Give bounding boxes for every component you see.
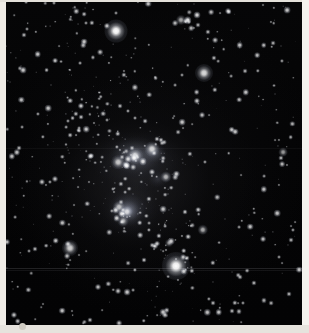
field-star (18, 66, 22, 70)
field-star-band (167, 193, 169, 195)
field-star (287, 61, 289, 63)
field-star-band (144, 183, 146, 185)
field-star-band (164, 223, 166, 225)
field-star (117, 103, 122, 108)
field-star-band (187, 266, 189, 268)
field-star (292, 116, 294, 118)
field-star (216, 59, 220, 63)
field-star (48, 263, 50, 265)
field-star (153, 245, 156, 248)
field-star (147, 43, 150, 46)
cluster-star-belt-group (136, 155, 139, 158)
cluster-star-sword-group (118, 210, 126, 218)
field-star (221, 39, 223, 41)
field-star-band (119, 82, 121, 84)
field-star (99, 161, 102, 164)
field-star-band (78, 126, 82, 130)
field-star (57, 195, 59, 197)
field-star (274, 210, 281, 217)
field-star-band (71, 74, 73, 76)
field-star-band (156, 233, 161, 238)
field-star (212, 281, 214, 283)
field-star (146, 184, 148, 186)
cluster-star-belt-group (130, 146, 135, 151)
field-star (228, 258, 230, 260)
cluster-star-belt-group (135, 155, 138, 158)
field-star (98, 213, 100, 215)
field-star (163, 153, 165, 155)
field-star-band (196, 207, 202, 213)
field-star-band (154, 142, 158, 146)
field-star-band (146, 196, 151, 201)
field-star (25, 27, 29, 31)
field-star-band (166, 219, 169, 222)
field-star-band (137, 213, 139, 215)
field-star (236, 273, 241, 278)
field-star (214, 195, 220, 201)
field-star-band (181, 248, 187, 254)
field-star-band (215, 259, 217, 261)
cluster-star-sword-group (126, 215, 129, 218)
field-star-band (133, 268, 137, 272)
scanline-artifact-faint (6, 148, 302, 149)
field-star (118, 232, 120, 234)
field-star-band (115, 145, 119, 149)
field-star (184, 268, 188, 272)
field-star (274, 93, 276, 95)
field-star (41, 134, 45, 138)
star-betelgeuse (105, 20, 128, 43)
field-star (225, 100, 227, 102)
field-star-band (139, 174, 141, 176)
field-star (261, 105, 263, 107)
belt-haze (90, 130, 186, 190)
cluster-star-sword-group (119, 200, 124, 205)
star-alnilam (127, 148, 143, 164)
field-star (176, 129, 181, 134)
field-star-band (92, 183, 94, 185)
field-star (141, 203, 143, 205)
field-star (247, 223, 254, 230)
star-tabit (198, 225, 208, 235)
field-star (290, 225, 293, 228)
field-star (105, 169, 108, 172)
field-star (218, 306, 221, 309)
field-star (193, 273, 195, 275)
field-star (280, 59, 284, 63)
field-star (124, 289, 131, 296)
field-star-band (85, 158, 87, 160)
field-star (22, 206, 24, 208)
field-star (262, 174, 266, 178)
field-star (183, 102, 186, 105)
field-star (84, 201, 90, 207)
field-star-band (142, 258, 147, 263)
field-star (8, 153, 14, 159)
field-star-band (158, 137, 163, 142)
field-star-band (109, 79, 112, 82)
field-star (75, 31, 78, 34)
star-sigma-orionis (160, 171, 171, 182)
cluster-star-upper-right-cluster (187, 10, 191, 14)
field-star-band (110, 93, 112, 95)
star-eta-orionis (113, 201, 125, 213)
field-star-band (65, 113, 67, 115)
field-star (206, 37, 209, 40)
field-star-band (50, 84, 52, 86)
field-star (20, 238, 23, 241)
field-star (34, 318, 37, 321)
field-star (156, 314, 159, 317)
field-star-band (97, 114, 100, 117)
field-star (83, 189, 85, 191)
field-star (220, 39, 223, 42)
field-star (59, 220, 65, 226)
field-star-band (163, 186, 166, 189)
field-star (21, 254, 23, 256)
field-star (153, 76, 158, 81)
field-star (160, 314, 162, 316)
field-star-band (140, 207, 142, 209)
field-star (82, 320, 86, 324)
field-star (13, 14, 16, 17)
field-star-band (68, 69, 70, 71)
field-star (99, 95, 104, 100)
field-star-band (133, 116, 137, 120)
field-star (59, 307, 66, 314)
